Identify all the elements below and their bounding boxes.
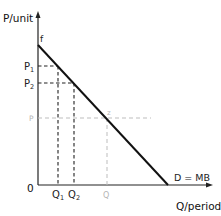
price-label-p1: P1 — [24, 61, 34, 74]
quantity-label-q1: Q1 — [52, 189, 64, 202]
quantity-label-q2: Q2 — [68, 189, 80, 202]
intercept-label: f — [40, 34, 44, 44]
guide-p1-q1 — [38, 66, 58, 185]
quantity-label-q: Q — [103, 191, 109, 200]
guide-p-q — [38, 118, 151, 185]
x-axis-arrow-icon — [206, 183, 213, 188]
price-label-p: P — [29, 114, 34, 123]
y-axis-label: P/unit — [3, 12, 33, 24]
origin-label: 0 — [27, 182, 34, 194]
guide-p2-q2 — [38, 83, 74, 185]
demand-diagram: P/unit Q/period 0 f z D = MB P1 P2 P Q1 … — [0, 0, 221, 216]
y-axis-arrow-icon — [36, 11, 41, 18]
x-axis-label: Q/period — [176, 200, 221, 212]
curve-label: D = MB — [174, 172, 210, 183]
axes — [36, 11, 214, 188]
price-label-p2: P2 — [24, 78, 34, 91]
point-z-label: z — [107, 109, 111, 117]
